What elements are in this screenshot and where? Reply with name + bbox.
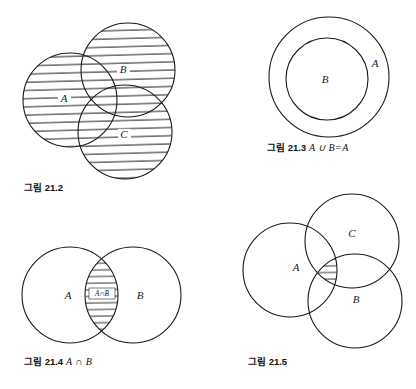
figure-21-4: A B A∩B xyxy=(22,240,181,355)
figure-sheet: A B C A B xyxy=(0,0,416,389)
fig-21-5-triple-hatching xyxy=(295,240,355,300)
fig-21-2-label-b: B xyxy=(120,63,127,75)
caption-21-2-number: 21.2 xyxy=(42,182,63,193)
fig-21-2-label-a: A xyxy=(60,92,68,104)
caption-21-5-number: 21.5 xyxy=(266,356,287,367)
venn-diagram-canvas: A B C A B xyxy=(0,0,416,389)
fig-21-2-label-c: C xyxy=(120,128,128,140)
fig-21-5-label-b: B xyxy=(353,293,360,305)
fig-21-4-label-b: B xyxy=(137,289,144,301)
figure-21-5: A B C xyxy=(243,194,402,348)
fig-21-4-lens-label-group: A∩B xyxy=(89,288,115,299)
caption-figure-21-3: 그림 21.3 A ∪ B=A xyxy=(267,140,349,154)
caption-21-3-math: A ∪ B=A xyxy=(306,142,349,153)
caption-21-4-number: 21.4 xyxy=(42,356,63,367)
fig-21-2-label-a-group: A xyxy=(58,92,71,104)
figure-21-3: A B xyxy=(269,17,389,137)
fig-21-3-label-a: A xyxy=(371,57,379,69)
fig-21-2-label-c-group: C xyxy=(118,128,131,140)
fig-21-5-label-c: C xyxy=(348,227,356,239)
fig-21-3-circle-a xyxy=(269,17,389,137)
caption-figure-21-5: 그림 21.5 xyxy=(248,354,287,368)
fig-21-2-label-b-group: B xyxy=(117,63,130,75)
fig-21-5-circle-c xyxy=(305,194,399,288)
caption-21-4-ko: 그림 xyxy=(24,356,42,367)
caption-21-4-math: A ∩ B xyxy=(63,356,92,367)
fig-21-4-lens-label: A∩B xyxy=(94,290,110,298)
caption-21-2-ko: 그림 xyxy=(24,182,42,193)
fig-21-3-label-b: B xyxy=(322,73,329,85)
caption-21-5-ko: 그림 xyxy=(248,356,266,367)
figure-21-2-union-hatching xyxy=(15,15,190,190)
caption-21-3-number: 21.3 xyxy=(285,142,306,153)
fig-21-5-label-a: A xyxy=(292,261,300,273)
caption-figure-21-4: 그림 21.4 A ∩ B xyxy=(24,354,92,368)
caption-21-3-ko: 그림 xyxy=(267,142,285,153)
caption-figure-21-2: 그림 21.2 xyxy=(24,180,63,194)
figure-21-2: A B C xyxy=(15,15,190,190)
fig-21-4-label-a: A xyxy=(64,289,72,301)
